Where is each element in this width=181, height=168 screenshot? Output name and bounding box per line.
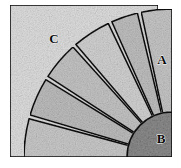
- label-a: A: [157, 52, 167, 67]
- label-c: C: [49, 31, 58, 46]
- figure-canvas: C A B: [0, 0, 181, 168]
- label-b: B: [157, 131, 166, 146]
- geometric-figure: C A B: [0, 0, 181, 168]
